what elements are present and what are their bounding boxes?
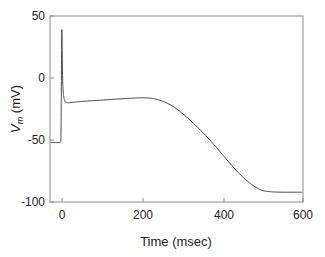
- x-tick-label: 200: [133, 208, 153, 222]
- x-tick-label: 600: [293, 208, 313, 222]
- x-tick-label: 0: [59, 208, 66, 222]
- y-tick-labels: 50 0 -50 -100: [21, 9, 45, 209]
- y-tick-label: -100: [21, 195, 45, 209]
- y-axis-title: Vm (mV): [8, 85, 25, 133]
- chart-figure: 50 0 -50 -100 0 200 400 600 Time (msec) …: [0, 0, 325, 257]
- x-tick-label: 400: [214, 208, 234, 222]
- y-tick-label: -50: [28, 133, 46, 147]
- chart-canvas: 50 0 -50 -100 0 200 400 600 Time (msec) …: [0, 0, 325, 257]
- y-axis-title-units: (mV): [8, 85, 23, 117]
- y-tick-label: 0: [38, 71, 45, 85]
- y-tick-label: 50: [32, 9, 46, 23]
- x-axis-title: Time (msec): [140, 234, 212, 249]
- svg-text:Vm (mV): Vm (mV): [8, 85, 25, 133]
- x-tick-labels: 0 200 400 600: [59, 208, 314, 222]
